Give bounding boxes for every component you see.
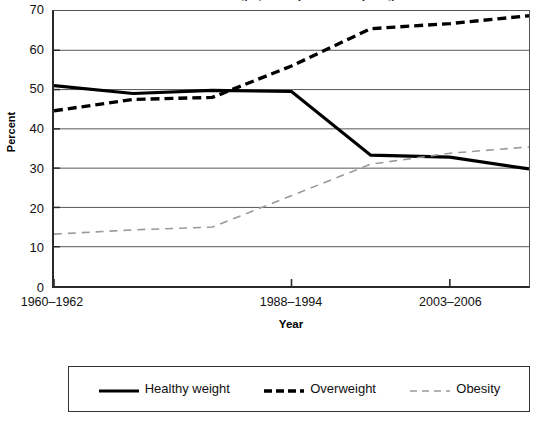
y-tick-label: 20 — [4, 202, 44, 215]
plot-area — [52, 10, 530, 288]
x-axis-title: Year — [52, 318, 530, 330]
series-line-overweight — [54, 16, 529, 111]
legend-label: Overweight — [310, 382, 376, 396]
x-axis-tick-labels: 1960–19621988–19942003–2006 — [0, 296, 553, 314]
chart-legend: Healthy weightOverweightObesity — [68, 366, 530, 412]
y-tick-label: 30 — [4, 162, 44, 175]
legend-label: Obesity — [456, 382, 500, 396]
y-tick-label: 40 — [4, 122, 44, 135]
x-tick-label: 1960–1962 — [21, 296, 84, 309]
legend-item[interactable]: Obesity — [409, 382, 500, 396]
legend-item[interactable]: Healthy weight — [98, 382, 230, 396]
y-tick-label: 70 — [4, 3, 44, 16]
chart-figure: Trends in overweight, obesity and health… — [0, 0, 553, 424]
legend-label: Healthy weight — [145, 382, 230, 396]
y-tick-label: 60 — [4, 43, 44, 56]
x-tick-label: 2003–2006 — [419, 296, 482, 309]
solid-thick-black-line-icon — [98, 383, 140, 395]
legend-item[interactable]: Overweight — [263, 382, 376, 396]
y-tick-label: 0 — [4, 281, 44, 294]
y-tick-label: 10 — [4, 241, 44, 254]
series-line-healthy-weight — [54, 86, 529, 169]
chart-title: Trends in overweight, obesity and health… — [0, 0, 553, 1]
y-axis-tick-labels: 706050403020100 — [0, 0, 44, 300]
dashed-thick-black-line-icon — [263, 383, 305, 395]
series-line-obesity — [54, 147, 529, 234]
dashed-thin-gray-line-icon — [409, 383, 451, 395]
legend-items-container: Healthy weightOverweightObesity — [69, 367, 529, 411]
x-tick-label: 1988–1994 — [260, 296, 323, 309]
plot-svg — [54, 11, 529, 286]
y-tick-label: 50 — [4, 82, 44, 95]
